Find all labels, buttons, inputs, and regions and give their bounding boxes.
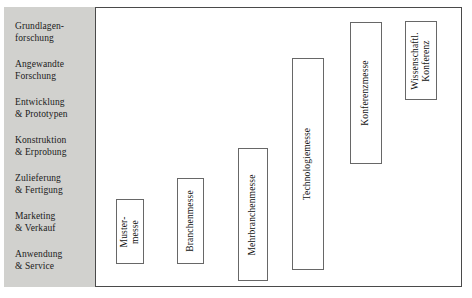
phase-item-konstruktion-erprobung: Konstruktion & Erprobung	[15, 135, 97, 159]
fair-box-technologiemesse: Technologiemesse	[292, 58, 324, 270]
phase-label-line2: forschung	[15, 33, 97, 45]
diagram-canvas: Grundlagen- forschung Angewandte Forschu…	[0, 0, 472, 298]
phase-label-line1: Entwicklung	[15, 97, 97, 109]
phase-label-line2: & Service	[15, 261, 97, 273]
phase-label-line1: Zulieferung	[15, 173, 97, 185]
phase-label-line1: Konstruktion	[15, 135, 97, 147]
phase-label-line2: & Erprobung	[15, 147, 97, 159]
fair-box-konferenzmesse: Konferenzmesse	[350, 22, 382, 164]
phase-label-line1: Angewandte	[15, 59, 97, 71]
phase-item-grundlagenforschung: Grundlagen- forschung	[15, 21, 97, 45]
phase-label-line1: Marketing	[15, 211, 97, 223]
phase-item-zulieferung-fertigung: Zulieferung & Fertigung	[15, 173, 97, 197]
phase-label-line1: Anwendung	[15, 249, 97, 261]
phase-label-line2: Forschung	[15, 71, 97, 83]
phase-item-marketing-verkauf: Marketing & Verkauf	[15, 211, 97, 235]
phase-label-line2: & Verkauf	[15, 223, 97, 235]
phase-item-anwendung-service: Anwendung & Service	[15, 249, 97, 273]
fair-label-line1: Muster-	[119, 204, 130, 260]
phase-label-line2: & Fertigung	[15, 185, 97, 197]
phase-label-line1: Grundlagen-	[15, 21, 97, 33]
phase-item-entwicklung-prototypen: Entwicklung & Prototypen	[15, 97, 97, 121]
fair-box-label: Konferenzmesse	[360, 60, 371, 125]
fair-label-line1: Wissenschaftl.	[410, 23, 421, 99]
fair-box-wissenschaftliche-konferenz: Wissenschaftl. Konferenz	[405, 21, 437, 100]
phase-item-angewandte-forschung: Angewandte Forschung	[15, 59, 97, 83]
fair-box-branchenmesse: Branchenmesse	[177, 178, 204, 264]
phase-column: Grundlagen- forschung Angewandte Forschu…	[4, 7, 96, 287]
fair-box-label: Branchenmesse	[185, 190, 196, 252]
fair-label-line2: messe	[130, 204, 141, 260]
fair-box-label: Muster- messe	[119, 204, 142, 260]
fair-box-label: Wissenschaftl. Konferenz	[410, 23, 433, 99]
fair-box-mustermesse: Muster- messe	[116, 199, 144, 264]
fair-box-mehrbranchenmesse: Mehrbranchenmesse	[238, 148, 268, 281]
fair-box-label: Mehrbranchenmesse	[247, 174, 258, 255]
fair-box-label: Technologiemesse	[302, 128, 313, 200]
phase-label-line2: & Prototypen	[15, 109, 97, 121]
fair-label-line2: Konferenz	[421, 23, 432, 99]
